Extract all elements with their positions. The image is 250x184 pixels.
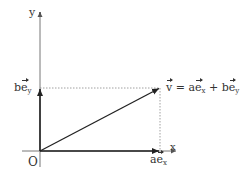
origin-label: O bbox=[28, 156, 38, 168]
vector-equation-label: v = aex + bey bbox=[166, 82, 239, 95]
vector-v-symbol: v bbox=[166, 82, 172, 93]
vector-v-arrow bbox=[40, 89, 159, 152]
y-axis-tip-dot bbox=[39, 12, 41, 14]
x-axis-label: x bbox=[170, 142, 176, 152]
x-component-label: aex bbox=[150, 154, 167, 167]
y-component-label: bey bbox=[14, 82, 32, 95]
y-axis-label: y bbox=[29, 7, 35, 18]
